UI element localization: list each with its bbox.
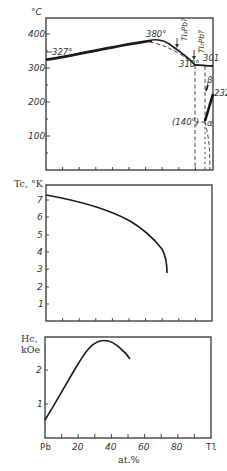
hc-y-ticks: 2 1 [36, 365, 48, 409]
tc-curve [46, 195, 167, 273]
x-tick-60: 60 [138, 442, 150, 452]
tc-plot: Tc, °K 7 6 5 4 3 2 1 [14, 178, 212, 321]
x-axis-title: at.% [118, 454, 140, 465]
label-alpha: α [207, 118, 213, 128]
phase-diagram-y-ticks: 400 300 200 100 [28, 29, 50, 153]
x-tick-tl: Tl [206, 442, 217, 452]
hc-plot: Hc, kOe 2 1 Pb 20 40 60 80 Tl at.% [21, 333, 217, 465]
alpha-beta-transition-line [205, 94, 213, 121]
tc-y-tick-1: 1 [38, 299, 44, 309]
label-tl7pb: Tl₇Pb? [197, 30, 206, 53]
tc-y-axis-title: Tc, °K [14, 178, 44, 189]
tc-y-tick-6: 6 [37, 212, 43, 222]
tc-y-tick-3: 3 [37, 264, 43, 274]
y-tick-300: 300 [28, 63, 45, 73]
beta-marker-stroke [206, 85, 208, 91]
hc-frame [45, 337, 211, 438]
tc-y-tick-4: 4 [37, 247, 43, 257]
tl3pb-arrow-icon [175, 38, 179, 48]
y-axis-unit-celsius: °C [31, 7, 43, 17]
hc-y-tick-1: 1 [37, 399, 43, 409]
phase-diagram-plot: °C 400 300 200 100 [28, 7, 227, 170]
label-380: 380° [146, 29, 166, 39]
alpha-boundary-dashed [205, 122, 210, 170]
label-301: 301 [203, 53, 219, 63]
label-310: 310° [179, 59, 199, 69]
tc-y-ticks: 7 6 5 4 3 2 1 [37, 195, 49, 309]
tc-y-tick-7: 7 [37, 195, 43, 205]
label-140: (140°) [172, 117, 199, 127]
label-232: 232 [214, 88, 227, 98]
x-tick-40: 40 [105, 442, 117, 452]
y-tick-400: 400 [28, 29, 45, 39]
label-327: 327° [52, 47, 72, 57]
hc-y-axis-title-line1: Hc, [21, 333, 38, 344]
figure-canvas: °C 400 300 200 100 [0, 0, 227, 471]
label-beta: β [206, 75, 213, 85]
x-tick-pb: Pb [40, 442, 51, 452]
tc-frame [46, 185, 212, 321]
hc-x-tick-labels: Pb 20 40 60 80 Tl [40, 442, 217, 452]
hc-y-tick-2: 2 [36, 365, 42, 375]
hc-curve [45, 340, 130, 420]
tc-y-tick-5: 5 [37, 230, 43, 240]
x-tick-20: 20 [72, 442, 84, 452]
x-tick-80: 80 [171, 442, 183, 452]
label-tl3pb: Tl₃Pb? [180, 18, 189, 41]
hc-y-axis-title-line2: kOe [21, 344, 41, 355]
tc-y-tick-2: 2 [37, 282, 43, 292]
y-tick-200: 200 [28, 97, 45, 107]
y-tick-100: 100 [28, 131, 45, 141]
